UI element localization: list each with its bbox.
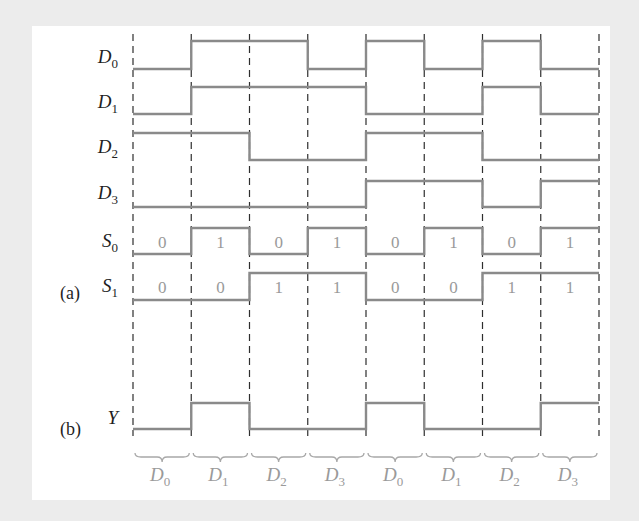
diagram-panel: D0D1D2D3S0S1Y 0101010100110011 D0D1D2D3D… (32, 26, 610, 500)
label-s0: S0 (102, 230, 118, 255)
timing-diagram: D0D1D2D3S0S1Y 0101010100110011 D0D1D2D3D… (32, 26, 610, 500)
select-value-s1: 1 (274, 278, 283, 297)
select-value-s0: 1 (333, 233, 342, 252)
select-value-s0: 0 (507, 233, 516, 252)
select-value-s0: 0 (391, 233, 400, 252)
selected-input-label: D3 (557, 464, 578, 489)
selected-input-label: D2 (266, 464, 287, 489)
select-value-s1: 0 (158, 278, 167, 297)
select-value-s1: 1 (333, 278, 342, 297)
selected-input-label: D1 (207, 464, 228, 489)
select-value-s1: 1 (507, 278, 516, 297)
waveform-y (133, 403, 599, 429)
waveform-s1 (133, 273, 599, 300)
brace (368, 453, 422, 462)
brace (310, 453, 364, 462)
selected-input-label: D2 (499, 464, 520, 489)
select-value-s0: 0 (158, 233, 167, 252)
select-value-s0: 1 (449, 233, 458, 252)
select-value-s0: 1 (566, 233, 575, 252)
label-d2: D2 (97, 136, 118, 161)
selected-input-label: D0 (382, 464, 403, 489)
select-value-s0: 0 (274, 233, 283, 252)
label-d3: D3 (97, 182, 118, 207)
waveform-d1 (133, 87, 599, 114)
selected-input-braces: D0D1D2D3D0D1D2D3 (135, 453, 597, 489)
select-value-s0: 1 (216, 233, 225, 252)
waveform-s0 (133, 228, 599, 254)
label-d0: D0 (97, 46, 118, 71)
brace (193, 453, 247, 462)
brace (543, 453, 597, 462)
label-s1: S1 (102, 275, 118, 300)
select-value-s1: 1 (566, 278, 575, 297)
part-label-b: (b) (60, 419, 81, 440)
select-value-s1: 0 (449, 278, 458, 297)
brace (252, 453, 306, 462)
label-y: Y (107, 407, 120, 428)
label-d1: D1 (97, 91, 118, 116)
brace (485, 453, 539, 462)
waveform-d2 (133, 133, 599, 160)
brace (426, 453, 480, 462)
waveform-d3 (133, 181, 599, 207)
selected-input-label: D0 (149, 464, 170, 489)
brace (135, 453, 189, 462)
part-label-a: (a) (60, 283, 80, 304)
select-value-s1: 0 (391, 278, 400, 297)
waveform-d0 (133, 41, 599, 69)
selected-input-label: D1 (440, 464, 461, 489)
select-value-s1: 0 (216, 278, 225, 297)
selected-input-label: D3 (324, 464, 345, 489)
signal-labels: D0D1D2D3S0S1Y (97, 46, 121, 428)
